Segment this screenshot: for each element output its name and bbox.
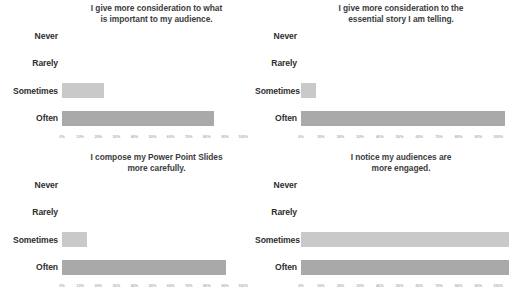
x-axis-tick: 0% bbox=[59, 283, 64, 288]
x-axis-tick: 10% bbox=[76, 283, 84, 288]
x-axis-tick: 100% bbox=[238, 283, 248, 288]
x-axis-tick: 80% bbox=[203, 134, 211, 139]
category-label-rarely: Rarely bbox=[255, 58, 301, 68]
chart-grid: I give more consideration to what is imp… bbox=[0, 0, 511, 298]
x-axis-tick: 20% bbox=[337, 283, 345, 288]
chart-title-line-1: I give more consideration to what bbox=[62, 3, 251, 14]
bar-track bbox=[301, 22, 511, 50]
x-axis-tick: 50% bbox=[396, 134, 404, 139]
x-axis-tick: 80% bbox=[203, 283, 211, 288]
bar-often bbox=[301, 111, 505, 126]
category-label-often: Often bbox=[0, 113, 62, 123]
x-axis-tick: 70% bbox=[185, 134, 193, 139]
chart-panel-audience-importance: I give more consideration to what is imp… bbox=[0, 0, 255, 149]
bar-track bbox=[301, 50, 511, 78]
x-axis-tick: 50% bbox=[149, 134, 157, 139]
x-axis-tick: 50% bbox=[149, 283, 157, 288]
bar-track bbox=[301, 77, 511, 105]
x-axis-tick: 70% bbox=[435, 283, 443, 288]
x-axis-tick: 60% bbox=[415, 283, 423, 288]
plot-area: Never Rarely Sometimes bbox=[0, 171, 255, 298]
bar-rows: Never Rarely Sometimes bbox=[255, 171, 511, 281]
x-axis-tick: 0% bbox=[298, 134, 303, 139]
x-axis-tick: 10% bbox=[76, 134, 84, 139]
x-axis-tick: 40% bbox=[376, 283, 384, 288]
x-axis-tick: 80% bbox=[455, 283, 463, 288]
x-axis-tick: 50% bbox=[396, 283, 404, 288]
bar-row-rarely: Rarely bbox=[0, 50, 255, 78]
x-axis-tick: 60% bbox=[167, 134, 175, 139]
bar-row-sometimes: Sometimes bbox=[255, 226, 511, 254]
bar-row-never: Never bbox=[255, 22, 511, 50]
chart-panel-essential-story: I give more consideration to the essenti… bbox=[255, 0, 511, 149]
x-axis: 0%10%20%30%40%50%60%70%80%90%100% bbox=[62, 283, 243, 295]
x-axis-tick: 70% bbox=[435, 134, 443, 139]
category-label-never: Never bbox=[255, 180, 301, 190]
plot-area: Never Rarely Sometimes bbox=[255, 22, 511, 149]
bar-rows: Never Rarely Sometimes bbox=[255, 22, 511, 132]
category-label-sometimes: Sometimes bbox=[255, 86, 301, 96]
bar-row-often: Often bbox=[255, 254, 511, 282]
x-axis-tick: 40% bbox=[131, 134, 139, 139]
x-axis-tick: 90% bbox=[221, 283, 229, 288]
bar-track bbox=[301, 199, 511, 227]
x-axis-tick: 100% bbox=[238, 134, 248, 139]
bar-track bbox=[301, 105, 511, 133]
category-label-sometimes: Sometimes bbox=[255, 235, 301, 245]
bar-row-sometimes: Sometimes bbox=[255, 77, 511, 105]
x-axis-tick: 40% bbox=[376, 134, 384, 139]
bar-track bbox=[62, 199, 255, 227]
bar-rows: Never Rarely Sometimes bbox=[0, 171, 255, 281]
category-label-never: Never bbox=[255, 31, 301, 41]
category-label-rarely: Rarely bbox=[0, 58, 62, 68]
bar-row-never: Never bbox=[255, 171, 511, 199]
x-axis-tick: 80% bbox=[455, 134, 463, 139]
bar-row-never: Never bbox=[0, 171, 255, 199]
x-axis-tick: 10% bbox=[317, 134, 325, 139]
bar-track bbox=[301, 226, 511, 254]
bar-track bbox=[62, 105, 255, 133]
x-axis-tick: 90% bbox=[475, 134, 483, 139]
bar-often bbox=[62, 111, 214, 126]
bar-sometimes bbox=[62, 232, 87, 247]
plot-area: Never Rarely Sometimes bbox=[255, 171, 511, 298]
x-axis-tick: 100% bbox=[493, 134, 503, 139]
x-axis-tick: 20% bbox=[94, 134, 102, 139]
bar-track bbox=[301, 171, 511, 199]
bar-rows: Never Rarely Sometimes bbox=[0, 22, 255, 132]
x-axis-tick: 100% bbox=[493, 283, 503, 288]
chart-title-line-1: I notice my audiences are bbox=[301, 152, 501, 163]
bar-row-often: Often bbox=[0, 105, 255, 133]
bar-row-rarely: Rarely bbox=[255, 50, 511, 78]
chart-title-line-1: I give more consideration to the bbox=[301, 3, 501, 14]
bar-track bbox=[62, 77, 255, 105]
x-axis-tick: 10% bbox=[317, 283, 325, 288]
bar-row-never: Never bbox=[0, 22, 255, 50]
bar-track bbox=[62, 50, 255, 78]
bar-often bbox=[301, 260, 509, 275]
category-label-never: Never bbox=[0, 31, 62, 41]
category-label-sometimes: Sometimes bbox=[0, 86, 62, 96]
bar-sometimes bbox=[301, 83, 316, 98]
x-axis-tick: 0% bbox=[59, 134, 64, 139]
x-axis: 0%10%20%30%40%50%60%70%80%90%100% bbox=[301, 283, 498, 295]
x-axis-tick: 60% bbox=[415, 134, 423, 139]
x-axis-tick: 60% bbox=[167, 283, 175, 288]
chart-title-line-1: I compose my Power Point Slides bbox=[62, 152, 251, 163]
bar-row-rarely: Rarely bbox=[0, 199, 255, 227]
category-label-never: Never bbox=[0, 180, 62, 190]
bar-track bbox=[62, 226, 255, 254]
bar-often bbox=[62, 260, 226, 275]
x-axis: 0%10%20%30%40%50%60%70%80%90%100% bbox=[301, 134, 498, 146]
x-axis-tick: 20% bbox=[94, 283, 102, 288]
bar-row-rarely: Rarely bbox=[255, 199, 511, 227]
x-axis-tick: 70% bbox=[185, 283, 193, 288]
bar-track bbox=[62, 22, 255, 50]
x-axis-tick: 30% bbox=[356, 283, 364, 288]
x-axis-tick: 20% bbox=[337, 134, 345, 139]
x-axis-tick: 0% bbox=[298, 283, 303, 288]
x-axis-tick: 30% bbox=[113, 283, 121, 288]
bar-row-often: Often bbox=[255, 105, 511, 133]
bar-track bbox=[301, 254, 511, 282]
x-axis-tick: 40% bbox=[131, 283, 139, 288]
